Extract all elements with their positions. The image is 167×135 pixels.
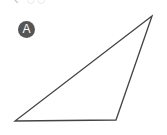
triangle-diagram [0,0,167,135]
triangle-shape [15,16,152,121]
